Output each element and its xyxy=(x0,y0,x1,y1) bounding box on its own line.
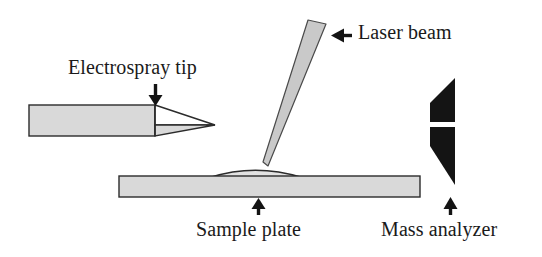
label-electrospray-tip: Electrospray tip xyxy=(68,57,197,77)
sample-plate-slab xyxy=(119,176,420,197)
laser-beam-pointer-arrow xyxy=(331,29,352,43)
electrospray-tip-shape xyxy=(29,105,215,136)
laser-beam-wedge xyxy=(263,20,326,166)
laser-beam-shape xyxy=(263,20,326,166)
arrow-head-up-sample xyxy=(252,198,266,209)
electrospray-barrel xyxy=(29,105,155,136)
arrow-head-left xyxy=(331,29,344,43)
arrow-head-up-analyzer xyxy=(444,197,458,209)
figure-canvas: Electrospray tip Laser beam Sample plate… xyxy=(0,0,542,257)
electrospray-tip-pointer-arrow xyxy=(149,84,163,106)
label-mass-analyzer: Mass analyzer xyxy=(381,219,497,239)
mass-analyzer-pointer-arrow xyxy=(444,197,458,215)
mass-analyzer-slit xyxy=(429,122,456,127)
mass-analyzer-shape xyxy=(429,78,456,185)
electrospray-nib-lower xyxy=(155,125,215,136)
label-laser-beam: Laser beam xyxy=(358,22,452,42)
sample-plate-shape xyxy=(119,170,420,197)
label-sample-plate: Sample plate xyxy=(196,219,301,239)
electrospray-nib-upper xyxy=(155,105,215,125)
mass-analyzer-upper-wedge xyxy=(430,78,455,122)
mass-analyzer-lower-wedge xyxy=(430,127,455,185)
sample-plate-pointer-arrow xyxy=(252,198,266,215)
